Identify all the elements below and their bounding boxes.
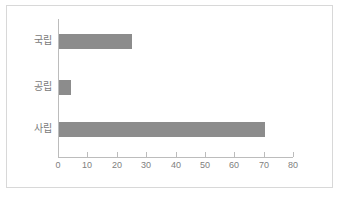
y-category-label-sarip: 사립 [8, 123, 52, 135]
bar-gukrip [59, 34, 132, 49]
x-tick-mark-10 [87, 152, 88, 157]
bar-chart-figure: 0 10 20 30 40 50 60 70 80 국립 공립 사립 [0, 0, 343, 200]
x-tick-label-70: 70 [252, 160, 276, 171]
x-tick-label-50: 50 [193, 160, 217, 171]
x-axis-line [58, 157, 293, 158]
x-tick-mark-30 [146, 152, 147, 157]
x-tick-label-0: 0 [46, 160, 70, 171]
x-tick-mark-0 [58, 152, 59, 157]
x-tick-label-20: 20 [105, 160, 129, 171]
x-tick-label-10: 10 [75, 160, 99, 171]
x-tick-mark-40 [176, 152, 177, 157]
x-tick-label-60: 60 [222, 160, 246, 171]
x-tick-label-40: 40 [164, 160, 188, 171]
y-category-label-gukrip: 국립 [8, 35, 52, 47]
bar-sarip [59, 122, 265, 137]
plot-area: 0 10 20 30 40 50 60 70 80 국립 공립 사립 [0, 0, 343, 200]
x-tick-mark-80 [293, 152, 294, 157]
x-tick-mark-60 [234, 152, 235, 157]
x-tick-mark-70 [264, 152, 265, 157]
x-tick-mark-20 [117, 152, 118, 157]
y-category-label-gongrip: 공립 [8, 81, 52, 93]
x-tick-label-80: 80 [281, 160, 305, 171]
x-tick-mark-50 [205, 152, 206, 157]
x-tick-label-30: 30 [134, 160, 158, 171]
bar-gongrip [59, 80, 71, 95]
